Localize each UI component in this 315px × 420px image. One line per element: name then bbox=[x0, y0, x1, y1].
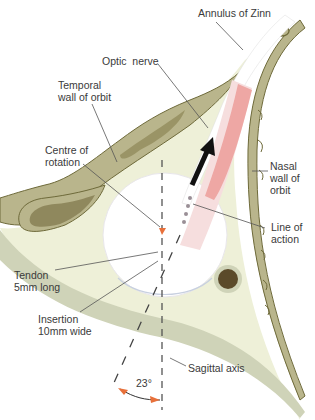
label-annulus-of-zinn: Annulus of Zinn bbox=[198, 7, 271, 19]
label-optic-nerve: Optic nerve bbox=[102, 55, 159, 67]
label-angle: 23° bbox=[136, 377, 152, 389]
angle-arrow-right bbox=[150, 396, 160, 403]
label-insertion: Insertion 10mm wide bbox=[38, 313, 92, 337]
label-temporal-wall: Temporal wall of orbit bbox=[58, 79, 111, 103]
label-centre-of-rotation: Centre of rotation bbox=[45, 144, 88, 168]
label-line-of-action: Line of action bbox=[271, 221, 303, 245]
label-tendon: Tendon 5mm long bbox=[14, 269, 60, 293]
angle-arrow-left bbox=[118, 388, 128, 395]
lacrimal-gland bbox=[218, 269, 238, 289]
label-sagittal-axis: Sagittal axis bbox=[188, 362, 245, 374]
label-nasal-wall: Nasal wall of orbit bbox=[270, 160, 300, 196]
